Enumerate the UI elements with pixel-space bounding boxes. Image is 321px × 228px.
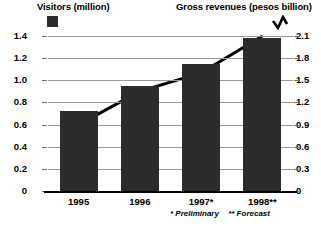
y-axis-left-tick (42, 169, 47, 170)
y-axis-right-tick (294, 80, 299, 81)
y-axis-left-tick-label: 1.4 (5, 31, 27, 41)
y-axis-right-tick (294, 147, 299, 148)
y-axis-right-tick-label: 1.8 (296, 53, 318, 63)
y-axis-right-tick (294, 102, 299, 103)
y-axis-right: 00.30.60.91.21.51.82.1 (296, 0, 320, 228)
footnote-preliminary: * Preliminary (170, 209, 219, 218)
y-axis-left-tick (42, 58, 47, 59)
y-axis-right-tick-label: 2.1 (296, 31, 318, 41)
y-axis-left-tick-label: 1.2 (5, 53, 27, 63)
gridline (48, 36, 293, 37)
legend-square-icon (47, 16, 58, 27)
y-axis-left-tick-label: 0 (5, 186, 27, 196)
y-axis-left-tick-label: 1.0 (5, 75, 27, 85)
y-axis-left-tick-label: 0.8 (5, 97, 27, 107)
y-axis-left-tick-label: 0.4 (5, 142, 27, 152)
y-axis-left-tick (42, 125, 47, 126)
y-axis-right-tick (294, 125, 299, 126)
bar (182, 64, 220, 191)
y-axis-right-tick (294, 36, 299, 37)
y-axis-left-tick (42, 102, 47, 103)
x-axis-category-label: 1995 (44, 196, 114, 207)
legend-label-visitors: Visitors (million) (37, 1, 109, 12)
y-axis-right-tick-label: 0.3 (296, 164, 318, 174)
y-axis-left-tick (42, 147, 47, 148)
chart-container: Visitors (million) Gross revenues (pesos… (0, 0, 321, 228)
y-axis-right-tick-label: 1.5 (296, 75, 318, 85)
footnotes: * Preliminary ** Forecast (170, 209, 277, 218)
plot-area (48, 36, 293, 191)
y-axis-right-tick (294, 169, 299, 170)
x-axis-line (44, 191, 297, 193)
x-axis-category-label: 1996 (105, 196, 175, 207)
y-axis-left-tick (42, 80, 47, 81)
footnote-forecast: ** Forecast (228, 209, 270, 218)
x-axis-category-label: 1998** (227, 196, 297, 207)
y-axis-left-tick-label: 0.2 (5, 164, 27, 174)
y-axis-right-tick-label: 0.9 (296, 120, 318, 130)
y-axis-left-tick (42, 36, 47, 37)
legend-label-gross-revenues: Gross revenues (pesos billion) (176, 1, 312, 12)
y-axis-right-tick (294, 58, 299, 59)
bar (121, 86, 159, 191)
x-axis-category-label: 1997* (166, 196, 236, 207)
legend-zigzag-line-icon (272, 15, 292, 30)
bar (60, 111, 98, 191)
y-axis-left: 00.20.40.60.81.01.21.4 (3, 0, 27, 228)
y-axis-right-tick-label: 0.6 (296, 142, 318, 152)
y-axis-left-tick-label: 0.6 (5, 120, 27, 130)
y-axis-right-tick-label: 0 (296, 186, 318, 196)
y-axis-right-tick-label: 1.2 (296, 97, 318, 107)
bar (243, 38, 281, 191)
